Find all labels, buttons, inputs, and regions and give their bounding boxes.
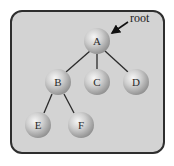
- node-label-e: E: [35, 119, 42, 131]
- tree-diagram: root A B C D E F: [0, 0, 174, 166]
- node-label-f: F: [78, 119, 84, 131]
- edge-b-e: [44, 94, 52, 113]
- edge-b-f: [64, 94, 74, 113]
- root-label: root: [130, 11, 150, 25]
- node-label-d: D: [132, 76, 140, 88]
- node-label-a: A: [93, 35, 101, 47]
- node-f: F: [68, 112, 94, 138]
- root-annotation: root: [112, 11, 150, 33]
- node-a: A: [84, 28, 110, 54]
- node-label-b: B: [54, 76, 61, 88]
- node-label-c: C: [93, 76, 100, 88]
- root-arrow-icon: [112, 22, 128, 33]
- edge-a-d: [105, 51, 128, 72]
- node-d: D: [123, 69, 149, 95]
- node-e: E: [25, 112, 51, 138]
- edge-a-b: [66, 51, 90, 72]
- node-c: C: [84, 69, 110, 95]
- node-b: B: [45, 69, 71, 95]
